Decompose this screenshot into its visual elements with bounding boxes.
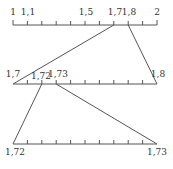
top-ruler-label-1: 1 — [10, 8, 16, 17]
bottom-ruler-label-1.72: 1,72 — [5, 148, 25, 157]
middle-ruler-label-1.7: 1,7 — [6, 70, 20, 79]
bottom-ruler-label-1.73: 1,73 — [147, 148, 167, 157]
zoom-ruler-diagram — [0, 0, 173, 169]
top-ruler-label-1.1: 1,1 — [21, 8, 35, 17]
top-ruler-label-2: 2 — [154, 8, 160, 17]
middle-ruler-label-1.8: 1,8 — [151, 70, 165, 79]
top-ruler-label-1.8: 1,8 — [122, 8, 136, 17]
top-ruler-label-1.7: 1,7 — [108, 8, 122, 17]
middle-ruler-label-1.73: 1,73 — [48, 70, 68, 79]
top-ruler-label-1.5: 1,5 — [79, 8, 93, 17]
